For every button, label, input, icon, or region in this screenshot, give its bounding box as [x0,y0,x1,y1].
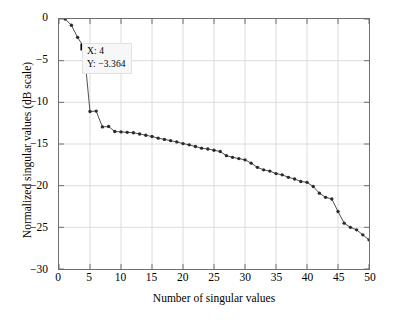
x-tick-label: 30 [239,272,251,284]
x-tick-label: 20 [177,272,189,284]
x-tick-label: 50 [364,272,376,284]
y-tick-label: −5 [36,54,48,66]
x-axis-title: Number of singular values [58,292,370,304]
data-tip-x-value: X: 4 [87,45,126,58]
x-tick-label: 35 [271,272,283,284]
data-tip[interactable]: X: 4 Y: −3.364 [82,43,132,74]
y-tick-label: −25 [30,222,48,234]
y-axis-tick-labels: 0−5−10−15−20−25−30 [0,18,53,270]
y-tick-label: −20 [30,180,48,192]
x-tick-label: 15 [146,272,158,284]
x-tick-label: 10 [115,272,127,284]
figure: Normalized singular values (dB scale) 0−… [0,0,393,322]
x-axis-tick-labels: 05101520253035404550 [58,272,370,288]
x-tick-label: 25 [208,272,220,284]
data-tip-y-value: Y: −3.364 [87,58,126,71]
y-tick-label: −15 [30,138,48,150]
y-tick-label: −30 [30,264,48,276]
x-tick-label: 40 [302,272,314,284]
y-tick-label: −10 [30,96,48,108]
x-tick-label: 0 [55,272,61,284]
x-tick-label: 45 [333,272,345,284]
x-tick-label: 5 [86,272,92,284]
y-tick-label: 0 [42,12,48,24]
